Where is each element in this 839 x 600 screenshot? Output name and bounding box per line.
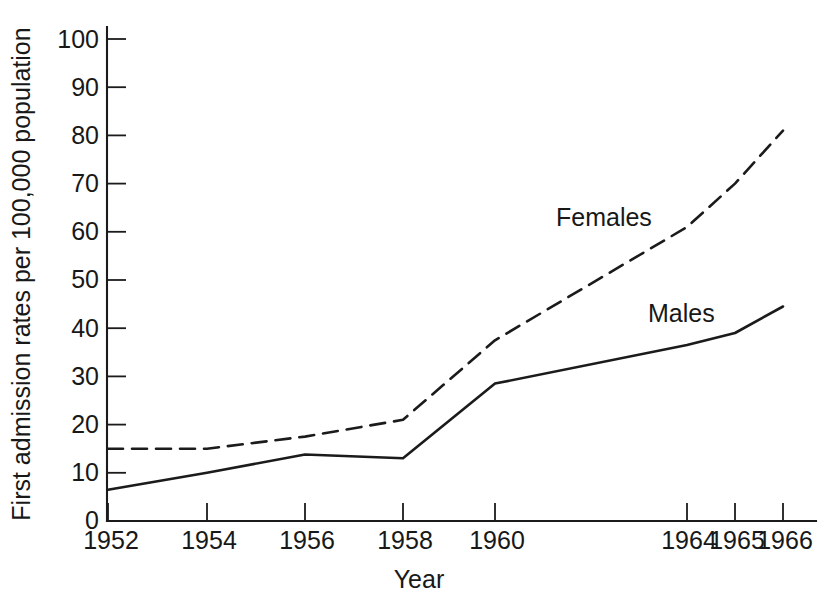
y-axis-title: First admission rates per 100,000 popula… [7,27,35,520]
x-tick-label-1954: 1954 [181,526,237,554]
series-line-males [108,307,783,490]
x-axis-title: Year [394,565,445,593]
x-tick-label-1958: 1958 [377,526,433,554]
x-axis-ticks [108,503,783,521]
x-axis-tick-labels: 1952 1954 1956 1958 1960 1964 1965 1966 [83,526,813,554]
x-tick-label-1960: 1960 [469,526,525,554]
x-tick-label-1966: 1966 [757,526,813,554]
series-line-females [108,131,783,449]
y-tick-label-100: 100 [57,25,99,53]
y-tick-label-60: 60 [71,217,99,245]
y-tick-label-70: 70 [71,169,99,197]
series-annotation-females: Females [556,203,652,231]
y-tick-label-30: 30 [71,362,99,390]
y-tick-label-20: 20 [71,410,99,438]
y-tick-label-40: 40 [71,314,99,342]
y-tick-label-10: 10 [71,458,99,486]
y-tick-label-80: 80 [71,121,99,149]
x-tick-label-1952: 1952 [83,526,139,554]
line-chart-svg: 0 10 20 30 40 50 60 70 80 90 100 1952 19 [0,0,839,600]
series-annotation-males: Males [648,299,715,327]
chart-figure: 0 10 20 30 40 50 60 70 80 90 100 1952 19 [0,0,839,600]
x-tick-label-1956: 1956 [279,526,335,554]
y-axis-tick-labels: 0 10 20 30 40 50 60 70 80 90 100 [57,25,99,534]
y-tick-label-90: 90 [71,73,99,101]
y-tick-label-50: 50 [71,265,99,293]
